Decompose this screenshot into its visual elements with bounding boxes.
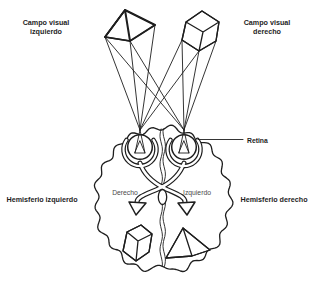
retina-label: Retina xyxy=(247,137,268,144)
cube-object xyxy=(182,11,219,51)
chiasm-stem xyxy=(158,190,166,205)
brain-left-field-label: Derecho xyxy=(112,189,138,196)
pyramid-object xyxy=(105,10,155,41)
left-visual-field-label-line1: Campo visual xyxy=(23,18,70,27)
visual-pathway-diagram: Campo visual izquierdo Campo visual dere… xyxy=(0,0,316,281)
left-visual-field-label-line2: izquierdo xyxy=(30,27,63,36)
right-hemisphere-label: Hemisferio derecho xyxy=(240,195,308,204)
right-visual-field-label-line1: Campo visual xyxy=(244,18,291,27)
right-visual-field-label-line2: derecho xyxy=(253,27,282,36)
left-hemisphere-label: Hemisferio izquierdo xyxy=(6,195,78,204)
left-eye xyxy=(128,135,153,160)
diagram-canvas: Campo visual izquierdo Campo visual dere… xyxy=(0,0,316,281)
right-eye xyxy=(172,135,197,160)
brain-right-field-label: Izquierdo xyxy=(183,189,211,197)
